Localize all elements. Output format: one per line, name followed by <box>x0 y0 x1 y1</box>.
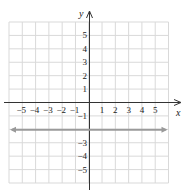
x-tick-label: 1 <box>100 105 105 115</box>
x-tick-label: −5 <box>17 105 27 115</box>
y-tick-label: 2 <box>83 71 88 81</box>
coordinate-plane: x y −5−4−3−2−11234554321−1−3−4−5 <box>0 0 190 193</box>
y-tick-label: −4 <box>77 151 87 161</box>
y-tick-label: 3 <box>83 57 88 67</box>
x-axis-label: x <box>175 107 181 118</box>
arrow-right-icon <box>162 127 168 133</box>
y-axis-label: y <box>78 8 84 19</box>
x-tick-label: −2 <box>56 105 66 115</box>
x-tick-label: −4 <box>30 105 40 115</box>
x-tick-label: 5 <box>153 105 158 115</box>
x-tick-label: 3 <box>126 105 131 115</box>
y-tick-label: −5 <box>77 165 87 175</box>
y-tick-label: −1 <box>77 111 87 121</box>
x-tick-label: −3 <box>43 105 53 115</box>
y-tick-label: 1 <box>83 84 88 94</box>
y-tick-label: 4 <box>83 44 88 54</box>
arrow-left-icon <box>10 127 16 133</box>
y-tick-label: 5 <box>83 30 88 40</box>
x-tick-label: 2 <box>113 105 118 115</box>
x-tick-label: 4 <box>140 105 145 115</box>
y-tick-label: −3 <box>77 138 87 148</box>
